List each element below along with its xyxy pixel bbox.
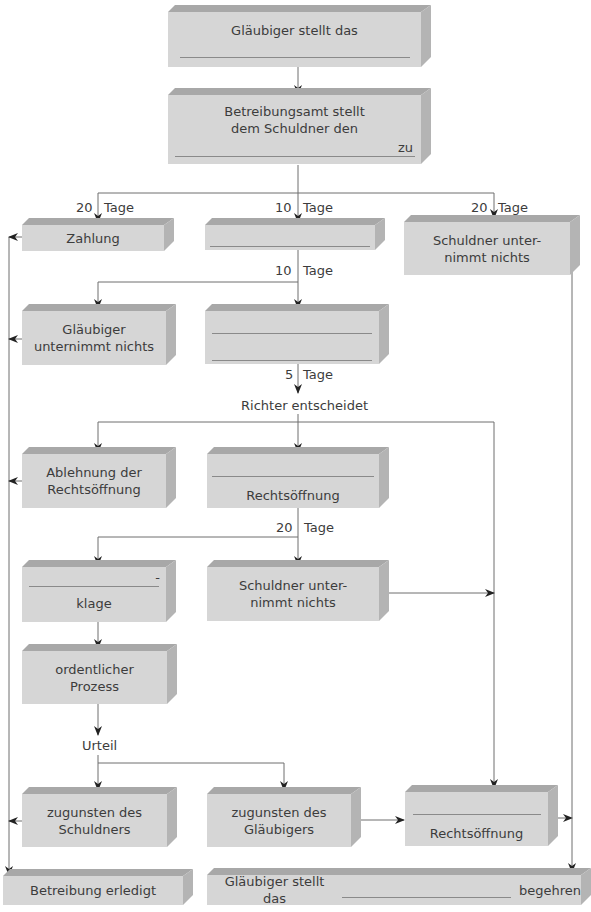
label-urteil: Urteil xyxy=(82,738,117,753)
box-text: Zahlung xyxy=(66,230,119,247)
box-ablehnung-rechtsoeffnung: Ablehnung der Rechtsöffnung xyxy=(22,447,176,508)
box-glaeubiger-stellt-das: Gläubiger stellt das xyxy=(168,5,431,67)
blank-field[interactable] xyxy=(210,246,370,247)
blank-field-1[interactable] xyxy=(212,333,372,334)
box-glaeubiger-unternimmt-nichts: Gläubiger unternimmt nichts xyxy=(22,304,176,365)
box-line1: ordentlicher xyxy=(55,661,134,678)
box-blank-two-lines xyxy=(205,304,389,364)
box-ordentlicher-prozess: ordentlicher Prozess xyxy=(22,644,177,704)
box-line2: dem Schuldner den xyxy=(231,120,358,137)
box-line1: zugunsten des xyxy=(47,804,142,821)
label-days-20-third-unit: Tage xyxy=(304,520,334,535)
box-line1: Schuldner unter- xyxy=(239,577,347,594)
box-glaeubiger-stellt-begehren: Gläubiger stellt das begehren xyxy=(207,868,591,905)
box-line2: Schuldners xyxy=(58,821,130,838)
box-zugunsten-schuldner: zugunsten des Schuldners xyxy=(22,787,177,847)
label-days-10-second-unit: Tage xyxy=(303,263,333,278)
label-days-5-unit: Tage xyxy=(303,367,333,382)
box-line2: nimmt nichts xyxy=(444,249,530,266)
box-text: klage xyxy=(76,595,111,612)
box-suffix: begehren xyxy=(519,882,581,899)
blank-field-2[interactable] xyxy=(212,360,372,361)
box-zugunsten-glaeubiger: zugunsten des Gläubigers xyxy=(207,787,361,847)
box-zahlung: Zahlung xyxy=(22,218,174,251)
box-blank-mid xyxy=(205,218,385,250)
blank-field[interactable] xyxy=(212,476,374,477)
box-line1: zugunsten des xyxy=(231,804,326,821)
label-days-5-num: 5 xyxy=(285,367,293,382)
label-days-20-right-unit: Tage xyxy=(498,200,528,215)
box-line1: Schuldner unter- xyxy=(433,232,541,249)
box-schuldner-unternimmt-nichts-mid: Schuldner unter- nimmt nichts xyxy=(207,560,389,621)
box-line2: unternimmt nichts xyxy=(34,338,154,355)
label-days-10-mid-unit: Tage xyxy=(303,200,333,215)
box-prefix: Gläubiger stellt das xyxy=(215,873,334,907)
box-line1: Betreibungsamt stellt xyxy=(224,103,365,120)
blank-field[interactable] xyxy=(413,814,541,815)
label-days-20-third-num: 20 xyxy=(276,520,293,535)
blank-field[interactable] xyxy=(175,156,415,157)
label-days-10-mid-num: 10 xyxy=(275,200,292,215)
box-klage: - klage xyxy=(22,560,176,622)
box-betreibung-erledigt: Betreibung erledigt xyxy=(3,869,193,905)
label-days-20-left-unit: Tage xyxy=(104,200,134,215)
box-line1: Ablehnung der xyxy=(46,464,142,481)
blank-field[interactable] xyxy=(180,57,410,58)
box-line2: Prozess xyxy=(70,678,119,695)
box-betreibungsamt: Betreibungsamt stellt dem Schuldner den … xyxy=(168,88,431,164)
box-text: Rechtsöffnung xyxy=(246,487,340,504)
label-days-20-right-num: 20 xyxy=(471,200,488,215)
label-richter-entscheidet: Richter entscheidet xyxy=(241,398,368,413)
box-line1: Gläubiger xyxy=(62,321,125,338)
box-text: Gläubiger stellt das xyxy=(231,22,358,39)
label-days-10-second-num: 10 xyxy=(275,263,292,278)
box-rechtsoeffnung-mid: Rechtsöffnung xyxy=(207,447,389,508)
box-text: Rechtsöffnung xyxy=(430,825,524,842)
box-dash: - xyxy=(155,573,160,583)
blank-field[interactable] xyxy=(342,897,511,898)
box-text: Betreibung erledigt xyxy=(30,882,156,899)
box-suffix: zu xyxy=(398,139,413,156)
box-schuldner-unternimmt-nichts-right: Schuldner unter- nimmt nichts xyxy=(404,215,580,275)
label-days-20-left-num: 20 xyxy=(76,200,93,215)
blank-field[interactable] xyxy=(29,586,159,587)
box-line2: Gläubigers xyxy=(244,821,314,838)
box-rechtsoeffnung-right: Rechtsöffnung xyxy=(405,785,558,846)
box-line2: nimmt nichts xyxy=(250,594,336,611)
box-line2: Rechtsöffnung xyxy=(47,481,141,498)
